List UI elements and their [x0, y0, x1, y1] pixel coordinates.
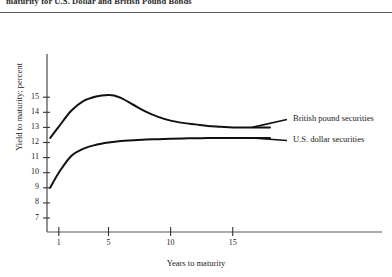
series-line: [50, 138, 270, 188]
y-tick-label: 7: [25, 213, 39, 222]
y-tick-label: 13: [25, 122, 39, 131]
caption-divider-rule: [0, 12, 392, 13]
series-label: U.S. dollar securities: [293, 134, 364, 144]
figure-container: maturity for U.S. Dollar and British Pou…: [0, 0, 392, 277]
plot-area: Yield to maturity; percent 7891011121314…: [0, 14, 392, 254]
y-tick-label: 10: [25, 167, 39, 176]
x-tick-label: 15: [226, 238, 240, 247]
x-tick-label: 5: [102, 238, 116, 247]
y-tick-label: 14: [25, 107, 39, 116]
y-tick-label: 8: [25, 197, 39, 206]
y-tick-label: 12: [25, 137, 39, 146]
figure-caption: maturity for U.S. Dollar and British Pou…: [6, 0, 386, 6]
y-tick-label: 9: [25, 182, 39, 191]
series-paths: [50, 95, 270, 188]
series-label: British pound securities: [293, 113, 374, 123]
x-tick-label: 1: [52, 238, 66, 247]
series-leader-line: [252, 120, 287, 128]
x-axis-title: Years to maturity: [0, 258, 392, 268]
y-tick-label: 15: [25, 92, 39, 101]
series-line: [50, 95, 270, 138]
x-tick-label: 10: [164, 238, 178, 247]
y-tick-label: 11: [25, 152, 39, 161]
